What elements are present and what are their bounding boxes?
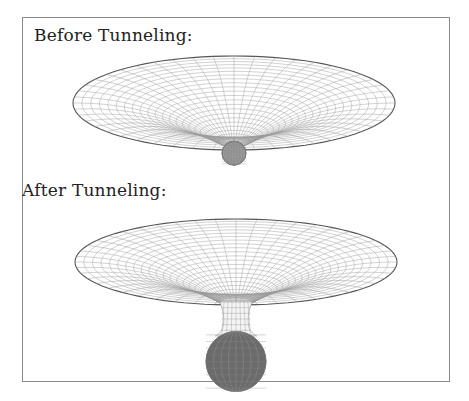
funnel-diagrams [0, 0, 469, 401]
funnel-after-tunneling [75, 219, 397, 392]
funnel-before-tunneling [73, 56, 395, 165]
